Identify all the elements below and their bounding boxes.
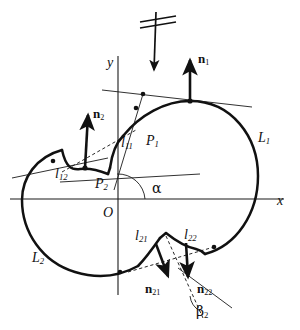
curve-label-L1: L1 [258,131,270,146]
curve-label-L2: L2 [32,251,44,266]
angle-label-alpha: α [152,181,161,195]
angle-label-beta2: β2 [196,304,208,320]
geometry-figure: y x O L1 L2 P1 P2 l11 l12 l21 l22 n1 n2 … [0,0,300,330]
normal-label-n21: n21 [145,282,160,297]
normal-label-n1: n1 [198,52,209,67]
axis-y-label: y [107,56,113,70]
dashed-chord-lower [128,247,214,272]
point-label-P2: P2 [95,177,108,192]
chord-line-P2 [60,174,200,182]
arc-label-l11: l11 [121,136,133,151]
normal-vector-n22 [186,243,188,277]
arc-label-l21: l21 [135,229,148,244]
incident-direction-arrow [140,12,176,70]
arc-label-l12: l12 [55,167,68,182]
normal-vector-n2 [85,115,88,168]
axis-x-label: x [277,194,283,208]
normal-vector-n21 [156,244,168,276]
normal-label-n22: n22 [197,282,212,297]
normal-label-n2: n2 [93,107,104,122]
point-label-P1: P1 [146,134,159,149]
tangent-line-n1 [102,90,252,107]
arc-label-l22: l22 [184,228,197,243]
origin-label: O [103,206,113,220]
